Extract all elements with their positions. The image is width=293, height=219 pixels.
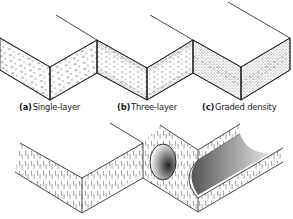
panel-a-single-layer [0,15,97,100]
label-a-letter: (a) [19,102,32,112]
panel-b-three-layer [97,15,193,100]
label-b-text: Three-layer [131,102,177,112]
label-c-letter: (c) [202,102,214,112]
label-b-letter: (b) [117,102,130,112]
label-c-text: Graded density [215,102,276,112]
label-a: (a)Single-layer [19,102,80,112]
label-b: (b)Three-layer [117,102,177,112]
bottom-panel-fibreboard [15,123,285,213]
round-hole [150,144,176,180]
bottom-label-clipped [48,212,198,219]
label-c: (c)Graded density [202,102,276,112]
label-a-text: Single-layer [33,102,80,112]
panel-c-graded-density [193,2,290,100]
